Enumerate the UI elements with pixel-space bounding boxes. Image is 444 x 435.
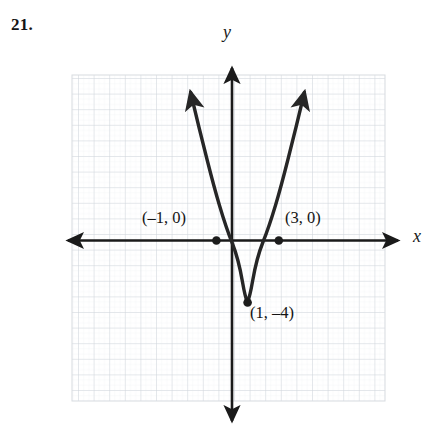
coordinate-plane-graphic [0, 0, 444, 435]
point-root-right [275, 236, 284, 245]
y-axis-label: y [223, 22, 231, 43]
point-root-left [212, 236, 221, 245]
point-label-root-left: (–1, 0) [142, 208, 186, 228]
problem-number: 21. [11, 15, 33, 35]
x-axis-label: x [413, 226, 421, 247]
graph-figure: 21. [0, 0, 444, 435]
point-label-vertex: (1, –4) [250, 303, 294, 323]
point-label-root-right: (3, 0) [285, 208, 321, 228]
